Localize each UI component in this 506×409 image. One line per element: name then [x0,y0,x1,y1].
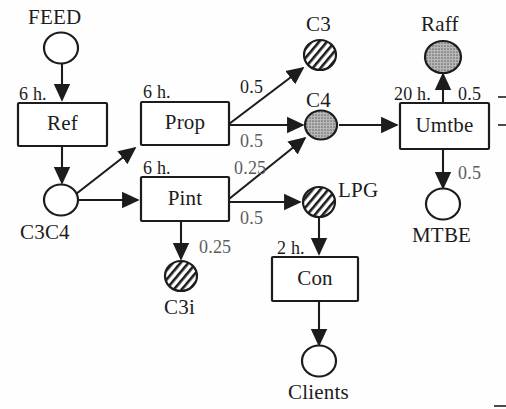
transition-label-prop: Prop [141,112,229,133]
time-label-pint: 6 h. [143,159,171,177]
arc-c3c4-prop [76,148,135,194]
place-raff[interactable] [425,41,461,73]
arc-weight-prop-c4: 0.5 [240,132,263,150]
diagram-canvas: FEED C3C4 C3 C4 C3i LPG Raff MTBE Client… [0,0,506,409]
transition-label-pint: Pint [141,188,229,209]
arc-weight-umtbe-raff: 0.5 [458,85,481,103]
place-feed[interactable] [44,33,78,64]
time-label-umtbe: 20 h. [394,85,431,103]
edge-crop-marks [494,97,506,406]
transition-label-ref: Ref [18,113,107,134]
arc-weight-pint-c4: 0.25 [234,159,266,177]
place-label-raff: Raff [421,14,459,35]
arc-weight-pint-c3i: 0.25 [199,238,231,256]
arc-weight-pint-lpg: 0.5 [240,209,263,227]
place-label-c3: C3 [306,14,331,35]
place-c3i[interactable] [165,261,197,291]
place-label-c3i: C3i [164,297,195,318]
time-label-ref: 6 h. [19,85,47,103]
arc-weight-prop-c3: 0.5 [240,78,263,96]
place-mtbe[interactable] [426,189,460,220]
place-label-lpg: LPG [338,180,378,201]
place-c4[interactable] [305,111,337,140]
place-label-c3c4: C3C4 [20,222,70,243]
place-clients[interactable] [302,346,336,377]
place-lpg[interactable] [303,187,335,217]
arc-weight-umtbe-mtbe: 0.5 [458,164,481,182]
place-label-clients: Clients [288,382,349,403]
diagram-graphics [0,0,506,409]
place-label-c4: C4 [306,90,331,111]
place-c3[interactable] [304,40,336,70]
arc-layer [62,64,443,345]
time-label-con: 2 h. [277,239,305,257]
time-label-prop: 6 h. [143,83,171,101]
place-label-feed: FEED [28,7,81,28]
transition-label-con: Con [272,268,358,289]
transition-label-umtbe: Umtbe [400,115,489,136]
place-c3c4[interactable] [44,185,78,216]
place-label-mtbe: MTBE [412,225,471,246]
